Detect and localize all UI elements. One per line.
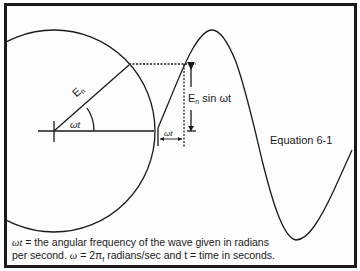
angle-label: ωt	[70, 119, 80, 130]
amplitude-label: En sin ωt	[188, 92, 231, 105]
angle-arc	[87, 108, 94, 131]
caption-line-2: per second. ω = 2πf radians/sec and t = …	[12, 249, 342, 266]
phase-label: ωt	[164, 129, 173, 138]
caption: ωt = the angular frequency of the wave g…	[12, 236, 342, 266]
caption-line-1: ωt = the angular frequency of the wave g…	[12, 236, 342, 249]
radius-label: En	[70, 83, 87, 100]
phasor-sine-diagram: En ωt En sin ωt ωt Equation 6-1	[0, 0, 360, 271]
equation-label: Equation 6-1	[270, 134, 332, 146]
radius-vector	[54, 65, 129, 131]
